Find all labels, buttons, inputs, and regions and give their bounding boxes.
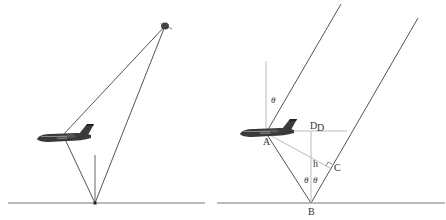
label-theta-top: θ xyxy=(271,95,276,105)
direct-ray-line xyxy=(63,26,165,135)
reflected-ray-line xyxy=(63,135,95,203)
label-a: A xyxy=(263,136,271,147)
label-h: h xyxy=(313,158,318,169)
perpendicular-a-to-c xyxy=(266,133,330,168)
reflection-point-marker xyxy=(94,202,97,205)
label-b: B xyxy=(308,206,315,217)
label-theta-right: θ xyxy=(313,175,318,185)
satellite-icon xyxy=(160,23,172,30)
label-c: C xyxy=(334,162,341,173)
reflection-geometry-diagram: A B C D D h θ θ θ xyxy=(0,0,446,220)
right-angle-mark xyxy=(326,162,332,166)
label-d-duplicate: D xyxy=(317,122,324,133)
parallel-ray-from-b xyxy=(311,18,418,203)
right-panel: A B C D D h θ θ θ xyxy=(217,4,445,217)
left-panel xyxy=(8,23,205,205)
reflected-ray-a-to-b xyxy=(266,133,311,203)
direct-ray-from-a xyxy=(266,4,341,133)
label-theta-left: θ xyxy=(304,175,309,185)
satellite-to-ground-ray xyxy=(95,26,165,203)
